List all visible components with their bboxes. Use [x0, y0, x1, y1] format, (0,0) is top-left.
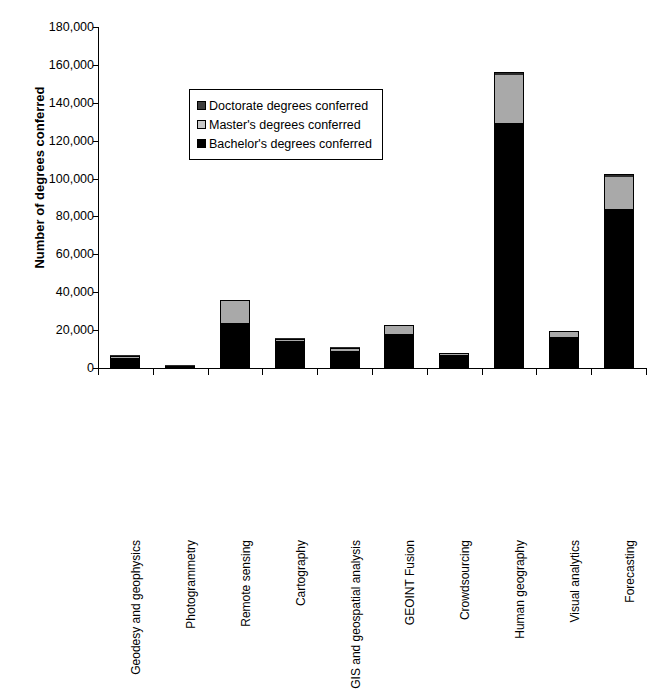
y-axis-tick-mark	[93, 141, 98, 142]
x-axis-category-label: GIS and geospatial analysis	[350, 540, 362, 689]
x-axis-category: Geodesy and geophysics	[118, 374, 132, 542]
x-axis-category: Remote sensing	[228, 374, 242, 542]
bar-segment	[384, 326, 414, 334]
x-axis-category-label: Crowdsourcing	[459, 540, 471, 620]
x-axis-category: Human geography	[502, 374, 516, 542]
x-axis-category-label: Human geography	[514, 540, 526, 639]
bar-segment	[220, 323, 250, 368]
y-axis-tick-label: 140,000	[20, 97, 94, 109]
bar	[384, 325, 414, 368]
legend-item: Doctorate degrees conferred	[197, 96, 372, 115]
y-axis-tick-mark	[93, 103, 98, 104]
y-axis-tick-label: 80,000	[20, 210, 94, 222]
x-axis-category: Cartography	[283, 374, 297, 542]
y-axis-tick-mark	[93, 330, 98, 331]
y-axis-tick-label: 180,000	[20, 21, 94, 33]
bar-segment	[494, 75, 524, 122]
x-axis-category: Crowdsourcing	[447, 374, 461, 542]
x-axis-category-label: Visual analytics	[569, 540, 581, 623]
bar-segment	[275, 341, 305, 368]
x-axis-category-label: Cartography	[295, 540, 307, 606]
bar-segment	[604, 177, 634, 209]
x-axis-category-label: Geodesy and geophysics	[130, 540, 142, 675]
masters-color-icon	[197, 120, 206, 129]
x-axis-category-label: GEOINT Fusion	[404, 540, 416, 625]
bar	[494, 72, 524, 368]
x-axis-category-labels: Geodesy and geophysicsPhotogrammetryRemo…	[98, 374, 646, 544]
bar-segment	[549, 337, 579, 368]
y-axis-tick-mark	[93, 254, 98, 255]
y-axis-tick-mark	[93, 292, 98, 293]
y-axis-tick-label: 40,000	[20, 286, 94, 298]
x-axis-category-label: Forecasting	[624, 540, 636, 603]
x-axis-tick-mark	[646, 369, 647, 375]
bar-segment	[220, 301, 250, 323]
bachelors-color-icon	[197, 139, 206, 148]
bar	[604, 174, 634, 368]
x-axis-category-label: Photogrammetry	[185, 540, 197, 629]
legend-item: Master's degrees conferred	[197, 115, 372, 134]
y-axis-tick-label: 60,000	[20, 248, 94, 260]
x-axis-category-label: Remote sensing	[240, 540, 252, 627]
bar-segment	[384, 334, 414, 368]
y-axis-tick-labels: 180,000160,000140,000120,000100,00080,00…	[20, 0, 94, 400]
bar-segment	[330, 351, 360, 368]
legend-item-label: Doctorate degrees conferred	[209, 99, 368, 113]
y-axis-tick-mark	[93, 65, 98, 66]
bar-segment	[110, 358, 140, 368]
chart-legend: Doctorate degrees conferredMaster's degr…	[189, 89, 383, 160]
bar-segment	[604, 209, 634, 368]
bar	[165, 365, 195, 368]
y-axis-tick-label: 20,000	[20, 324, 94, 336]
y-axis-tick-label: 120,000	[20, 135, 94, 147]
y-axis-tick-label: 0	[20, 362, 94, 374]
legend-item: Bachelor's degrees conferred	[197, 134, 372, 153]
plot-area	[98, 27, 646, 368]
y-axis-tick-mark	[93, 27, 98, 28]
y-axis-tick-mark	[93, 216, 98, 217]
bar	[110, 355, 140, 368]
x-axis-category: Forecasting	[612, 374, 626, 542]
y-axis-tick-mark	[93, 179, 98, 180]
legend-item-label: Bachelor's degrees conferred	[209, 137, 372, 151]
legend-item-label: Master's degrees conferred	[209, 118, 361, 132]
bar-segment	[165, 367, 195, 368]
bar	[549, 331, 579, 368]
y-axis-tick-label: 160,000	[20, 59, 94, 71]
bar	[220, 300, 250, 368]
x-axis-category: GEOINT Fusion	[392, 374, 406, 542]
bar-segment	[494, 123, 524, 368]
y-axis-tick-label: 100,000	[20, 173, 94, 185]
x-axis-category: Visual analytics	[557, 374, 571, 542]
doctorate-color-icon	[197, 101, 206, 110]
x-axis-category: Photogrammetry	[173, 374, 187, 542]
bar-segment	[439, 355, 469, 368]
x-axis-category: GIS and geospatial analysis	[338, 374, 352, 542]
bar	[330, 347, 360, 368]
bar	[275, 338, 305, 368]
bar	[439, 353, 469, 368]
